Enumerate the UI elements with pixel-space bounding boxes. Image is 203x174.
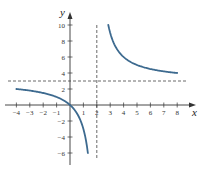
x-tick-label: 8: [175, 109, 179, 117]
y-tick-label: 6: [62, 54, 66, 62]
x-tick-label: 3: [108, 109, 112, 117]
y-tick-label: 10: [58, 22, 66, 30]
x-tick-label: 2: [95, 109, 99, 117]
y-axis-label: y: [59, 6, 65, 18]
x-tick-label: −4: [13, 109, 21, 117]
ticks: −4−3−2−112345678108642−2−4−6: [13, 22, 180, 158]
y-tick-label: −4: [58, 134, 66, 142]
x-tick-label: 7: [162, 109, 166, 117]
rational-function-graph: −4−3−2−112345678108642−2−4−6 x y: [0, 0, 203, 174]
x-tick-label: −1: [53, 109, 61, 117]
x-axis-label: x: [191, 106, 197, 118]
x-tick-label: −3: [26, 109, 34, 117]
x-tick-label: 1: [82, 109, 86, 117]
x-tick-label: 4: [122, 109, 126, 117]
y-axis-arrow-icon: [68, 12, 73, 19]
y-tick-label: 8: [62, 38, 66, 46]
function-curves: [16, 25, 177, 153]
right-branch-curve: [108, 25, 177, 73]
y-tick-label: 2: [62, 86, 66, 94]
axes: [5, 12, 196, 165]
y-tick-label: −2: [58, 118, 66, 126]
y-tick-label: −6: [58, 150, 66, 158]
x-tick-label: 5: [135, 109, 139, 117]
y-tick-label: 4: [62, 70, 66, 78]
x-tick-label: −2: [39, 109, 47, 117]
left-branch-curve: [16, 89, 87, 153]
x-tick-label: 6: [149, 109, 153, 117]
